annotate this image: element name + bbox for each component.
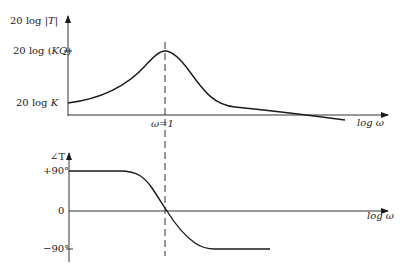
magnitude-plot: 20 log |T| 20 log (KQ) 20 log K ω=1 log … xyxy=(10,15,388,129)
magnitude-y-label: 20 log |T| xyxy=(10,15,58,27)
magnitude-curve xyxy=(68,51,345,120)
magnitude-x-label: log ω xyxy=(357,117,384,128)
tick-label-kq: 20 log (KQ) xyxy=(13,45,71,56)
tick-label-k: 20 log K xyxy=(16,97,59,108)
tick-label-zero: 0 xyxy=(58,205,64,216)
phase-y-label: ∠T xyxy=(50,151,65,162)
phase-plot: ∠T +90° 0 −90° log ω xyxy=(43,151,394,262)
phase-curve xyxy=(69,171,270,249)
phase-x-label: log ω xyxy=(367,210,394,221)
bode-diagram: 20 log |T| 20 log (KQ) 20 log K ω=1 log … xyxy=(0,0,405,275)
tick-label-pos90: +90° xyxy=(43,165,69,176)
tick-label-neg90: −90° xyxy=(43,243,69,254)
omega-one-label: ω=1 xyxy=(151,118,174,129)
